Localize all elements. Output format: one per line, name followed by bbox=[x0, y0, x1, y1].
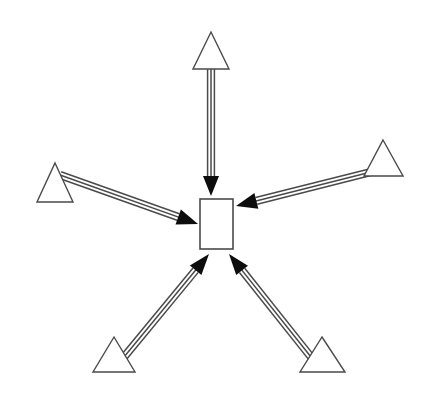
node-spoke-left[interactable] bbox=[37, 163, 73, 202]
edge-bottom-left-to-hub-shaft bbox=[127, 272, 199, 359]
edge-left-to-hub-shaft bbox=[61, 172, 179, 214]
node-spoke-bottom-right[interactable] bbox=[300, 337, 345, 372]
edge-left-to-hub bbox=[59, 172, 198, 225]
edge-bottom-left-to-hub bbox=[121, 254, 209, 359]
hub-rectangle[interactable] bbox=[200, 199, 233, 249]
diagram-svg bbox=[0, 0, 429, 403]
edge-bottom-right-to-hub-shaft bbox=[235, 261, 311, 357]
diagram-canvas bbox=[0, 0, 429, 403]
edge-bottom-left-to-hub-shaft bbox=[121, 268, 193, 355]
edge-bottom-right-to-hub-arrowhead bbox=[229, 254, 248, 275]
edge-left-to-hub-arrowhead bbox=[176, 209, 198, 224]
node-spoke-right[interactable] bbox=[364, 140, 403, 176]
edge-left-to-hub-shaft bbox=[59, 178, 177, 220]
edge-right-to-hub-shaft bbox=[245, 172, 371, 204]
edge-bottom-right-to-hub-shaft bbox=[239, 273, 308, 360]
edge-right-to-hub-shaft bbox=[256, 169, 371, 198]
edge-right-to-hub bbox=[236, 169, 372, 209]
edge-top-to-hub bbox=[203, 66, 219, 196]
edge-left-to-hub-shaft bbox=[60, 175, 189, 221]
edge-bottom-left-to-hub-shaft bbox=[124, 261, 203, 357]
edge-bottom-left-to-hub-arrowhead bbox=[190, 254, 209, 275]
edge-bottom-right-to-hub bbox=[229, 254, 314, 359]
node-spoke-top[interactable] bbox=[193, 32, 229, 69]
nodes-layer bbox=[37, 32, 403, 372]
node-spoke-bottom-left[interactable] bbox=[93, 337, 135, 372]
edge-top-to-hub-arrowhead bbox=[203, 176, 219, 196]
edge-right-to-hub-arrowhead bbox=[236, 193, 258, 209]
edge-right-to-hub-shaft bbox=[257, 175, 372, 204]
edge-bottom-right-to-hub-shaft bbox=[245, 268, 314, 355]
